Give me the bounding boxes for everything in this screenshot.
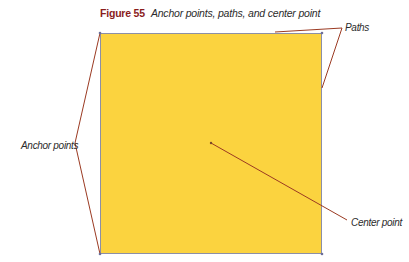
anchor-points-label: Anchor points (21, 140, 78, 151)
paths-callout-line (275, 28, 342, 88)
anchor-point-bottom-right (321, 253, 324, 256)
paths-label: Paths (345, 22, 369, 33)
center-point-callout-line (211, 143, 347, 220)
anchor-point-top-left (99, 32, 102, 35)
callout-lines (0, 0, 409, 262)
anchor-points-callout-line (75, 33, 100, 254)
anchor-point-bottom-left (99, 253, 102, 256)
anchor-point-top-right (321, 32, 324, 35)
center-point-label: Center point (351, 217, 402, 228)
center-point-marker (210, 142, 212, 144)
